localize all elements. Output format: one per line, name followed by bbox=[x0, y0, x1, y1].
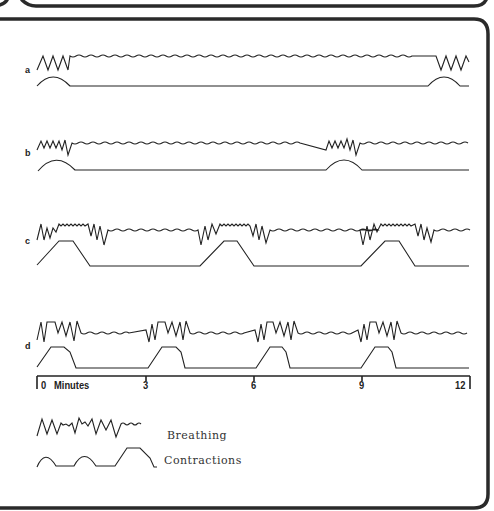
row-b-breathing bbox=[37, 139, 468, 155]
row-label-b: b bbox=[25, 148, 31, 158]
axis-tick-label-3: 3 bbox=[143, 379, 148, 391]
legend-label-contractions: Contractions bbox=[164, 454, 242, 467]
axis-tick-label-6: 6 bbox=[251, 379, 256, 391]
row-c-breathing bbox=[37, 224, 470, 245]
row-c-contractions bbox=[37, 241, 469, 266]
row-b-contractions bbox=[38, 160, 469, 171]
row-label-c: c bbox=[25, 236, 30, 246]
axis-tick-label-12: 12 bbox=[455, 379, 465, 391]
legend-contractions-symbol bbox=[37, 448, 157, 467]
axis-tick-label-0: 0 bbox=[41, 379, 46, 391]
row-c-traces bbox=[37, 224, 470, 266]
row-label-a: a bbox=[25, 65, 30, 75]
previous-panel-border-main bbox=[22, 0, 486, 6]
row-d-breathing bbox=[37, 321, 467, 342]
row-a-traces bbox=[37, 55, 469, 86]
row-a-contractions bbox=[37, 77, 469, 86]
previous-panel-border bbox=[0, 0, 7, 5]
row-d-traces bbox=[37, 321, 469, 368]
legend-breathing-symbol bbox=[37, 418, 141, 437]
figure-canvas bbox=[0, 0, 494, 511]
row-label-d: d bbox=[25, 341, 31, 351]
legend-label-breathing: Breathing bbox=[167, 429, 227, 442]
axis-tick-label-9: 9 bbox=[359, 379, 364, 391]
row-d-contractions bbox=[37, 347, 469, 368]
row-b-traces bbox=[37, 139, 469, 171]
breathing-contractions-figure: a b c d 0 Minutes 3 6 9 12 Breathing Con… bbox=[0, 0, 494, 511]
axis-unit-label: Minutes bbox=[54, 379, 89, 391]
row-a-breathing bbox=[37, 55, 469, 70]
main-panel-frame bbox=[0, 19, 488, 508]
